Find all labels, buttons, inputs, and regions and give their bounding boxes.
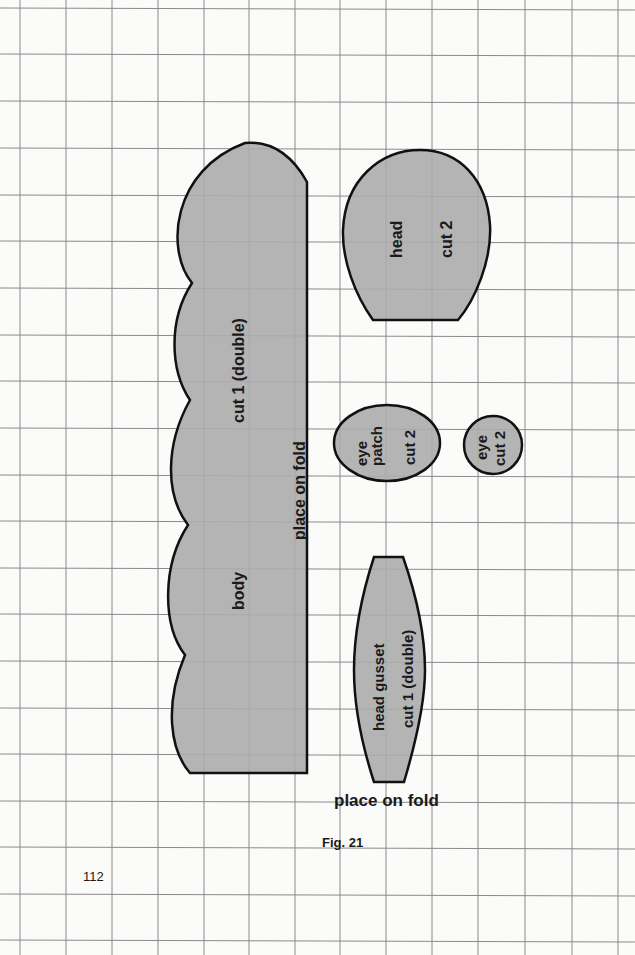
head-cut-instruction: cut 2 bbox=[438, 221, 455, 258]
eye-patch-name-line2: patch bbox=[368, 426, 385, 466]
head-gusset-cut-instruction: cut 1 (double) bbox=[399, 630, 416, 728]
eye-cut-instruction: cut 2 bbox=[491, 431, 508, 466]
head-gusset-place-on-fold-label: place on fold bbox=[334, 791, 439, 811]
eye-patch-cut-instruction: cut 2 bbox=[401, 430, 418, 465]
head-gusset-name-label: head gusset bbox=[370, 643, 387, 731]
head-name-label: head bbox=[388, 221, 405, 258]
eye-patch-piece bbox=[334, 405, 440, 481]
grid bbox=[0, 0, 635, 955]
body-cut-instruction: cut 1 (double) bbox=[230, 318, 247, 423]
body-piece bbox=[168, 143, 307, 773]
head-piece bbox=[343, 150, 490, 320]
pattern-diagram: cut 1 (double) body place on fold head c… bbox=[0, 0, 635, 955]
body-name-label: body bbox=[230, 572, 247, 610]
page-number: 112 bbox=[83, 869, 104, 884]
pattern-sheet: cut 1 (double) body place on fold head c… bbox=[0, 0, 635, 955]
figure-caption: Fig. 21 bbox=[322, 835, 363, 850]
body-place-on-fold-label: place on fold bbox=[291, 441, 308, 540]
eye-name-label: eye bbox=[473, 435, 490, 460]
